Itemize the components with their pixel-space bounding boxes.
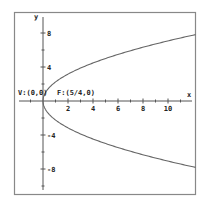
x-tick-label: 10 (164, 105, 172, 113)
x-tick-label: 4 (91, 105, 95, 113)
focus-annotation: F:(5/4,0) (57, 89, 95, 97)
x-tick-label: 2 (66, 105, 70, 113)
y-tick-label: -8 (47, 166, 55, 174)
y-tick-label: -4 (47, 132, 55, 140)
x-tick-label: 8 (141, 105, 145, 113)
y-tick-label: 8 (47, 30, 51, 38)
vertex-annotation: V:(0,0) (18, 89, 48, 97)
parabola-plot: 24681084-4-8xyV:(0,0)F:(5/4,0) (0, 0, 206, 204)
y-tick-label: 4 (47, 64, 51, 72)
x-tick-label: 6 (116, 105, 120, 113)
